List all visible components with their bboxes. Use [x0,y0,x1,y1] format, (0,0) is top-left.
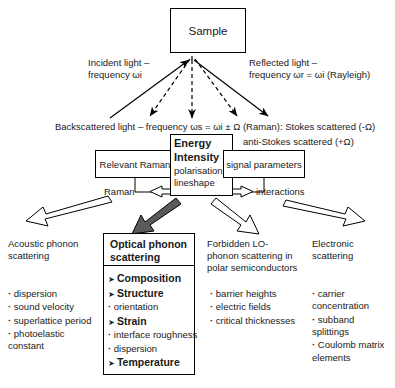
list-item: · superlattice period [8,315,100,327]
list-item-label: Composition [117,272,181,284]
list-item: · sound velocity [8,301,100,313]
list-item: ➤ Structure [108,287,200,301]
list-item-label: interface roughness [114,329,197,340]
signal-parameters-label: signal parameters [226,159,302,170]
list-item: ➤ Temperature [108,356,200,370]
list-item-label: barrier heights [216,288,277,299]
reflected-light-label: Reflected light – frequency ωr = ωi (Ray… [249,57,395,80]
center-box-line-energy: Energy [174,137,232,151]
list-item-label: Structure [117,287,164,299]
fanout-arrow-optical [132,198,181,234]
center-box-line-lineshape: lineshape [174,177,232,189]
list-item: · electric fields [210,301,310,313]
list-item-label: carrier concentration [312,288,369,311]
list-item: ➤ Strain [108,315,200,329]
interactions-label: interactions [256,186,305,198]
relevant-raman-label: Relevant Raman [100,159,171,170]
raman-label: Raman [104,186,135,198]
arrow-bullet-icon: ➤ [108,275,117,284]
list-item: · dispersion [108,343,200,355]
arrow-bullet-icon: ➤ [108,318,117,327]
list-item: · barrier heights [210,288,310,300]
list-item-label: sound velocity [14,301,74,312]
column-list-acoustic: · dispersion· sound velocity· superlatti… [8,288,100,354]
list-item-label: electric fields [216,301,271,312]
list-item-label: superlattice period [14,315,92,326]
fanout-arrow-forbidden [211,198,259,234]
signal-parameters-box: signal parameters [223,150,305,178]
column-list-electronic: · carrier concentration· subband splitti… [312,288,394,365]
backscattered-light-label: Backscattered light – frequency ωs = ωi … [55,121,395,133]
list-item: · dispersion [8,288,100,300]
list-item-label: Strain [117,315,147,327]
list-item-label: dispersion [14,288,57,299]
column-title-forbidden: Forbidden LO- phonon scattering in polar… [207,238,307,274]
column-title-electronic: Electronic scattering [312,238,392,262]
list-item-label: photoelastic constant [8,328,65,351]
list-item-label: subband splittings [312,314,354,337]
sample-box: Sample [170,8,246,53]
column-title-acoustic: Acoustic phonon scattering [8,238,98,262]
relevant-raman-box: Relevant Raman [95,150,175,178]
arrow-bullet-icon: ➤ [108,359,117,368]
list-item: · interface roughness [108,329,200,341]
sample-box-label: Sample [189,25,228,37]
column-title-optical: Optical phonon scattering [110,238,194,264]
raman-scattering-diagram: Sample Incident light – frequency ωi Ref… [0,0,395,388]
list-item: ➤ Composition [108,272,200,286]
anti-stokes-label: anti-Stokes scattered (+Ω) [243,136,393,148]
column-list-optical: ➤ Composition➤ Structure· orientation➤ S… [108,272,200,371]
fanout-arrow-acoustic [26,196,112,226]
list-item: · orientation [108,301,200,313]
list-item-label: Coulomb matrix elements [312,339,384,362]
list-item-label: dispersion [114,343,157,354]
list-item-label: Temperature [117,356,180,368]
list-item: · photoelastic constant [8,328,100,353]
list-item: · critical thicknesses [210,315,310,327]
optical-phonon-box-divider [104,265,194,266]
list-item-label: orientation [114,301,158,312]
fanout-arrow-electronic [283,200,365,226]
list-item: · Coulomb matrix elements [312,339,394,364]
incident-light-label: Incident light – frequency ωi [88,57,193,80]
arrow-bullet-icon: ➤ [108,290,117,299]
list-item: · carrier concentration [312,288,394,313]
column-list-forbidden: · barrier heights· electric fields· crit… [210,288,310,328]
list-item: · subband splittings [312,314,394,339]
list-item-label: critical thicknesses [216,315,295,326]
